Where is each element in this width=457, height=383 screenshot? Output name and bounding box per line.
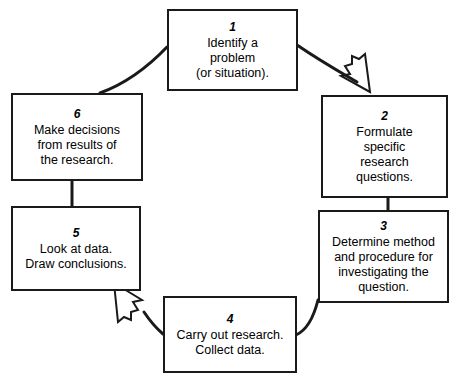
- node-5-label: Look at data. Draw conclusions.: [21, 242, 130, 272]
- process-node-3[interactable]: 3 Determine method and procedure for inv…: [318, 210, 449, 303]
- diagram-canvas: 1 Identify a problem (or situation). 2 F…: [0, 0, 457, 383]
- node-3-label: Determine method and procedure for inves…: [328, 235, 439, 295]
- process-node-6[interactable]: 6 Make decisions from results of the res…: [11, 93, 143, 181]
- node-1-label: Identify a problem (or situation).: [192, 36, 273, 81]
- connector-1-to-2: [297, 45, 357, 82]
- process-node-1[interactable]: 1 Identify a problem (or situation).: [167, 9, 298, 91]
- connector-3-to-4: [296, 300, 318, 335]
- process-node-4[interactable]: 4 Carry out research. Collect data.: [163, 296, 297, 373]
- node-6-number: 6: [74, 107, 81, 121]
- node-4-number: 4: [227, 312, 234, 326]
- process-node-2[interactable]: 2 Formulate specific research questions.: [321, 95, 448, 198]
- node-5-number: 5: [73, 226, 80, 240]
- node-2-number: 2: [381, 109, 388, 123]
- node-1-number: 1: [229, 20, 236, 34]
- process-node-5[interactable]: 5 Look at data. Draw conclusions.: [11, 206, 141, 291]
- connector-6-to-1: [100, 47, 167, 93]
- connector-4-to-5: [144, 312, 163, 334]
- node-6-label: Make decisions from results of the resea…: [30, 123, 124, 168]
- node-4-label: Carry out research. Collect data.: [173, 328, 288, 358]
- node-3-number: 3: [380, 219, 387, 233]
- arrowhead-1-to-2: [341, 54, 370, 92]
- node-2-label: Formulate specific research questions.: [352, 125, 417, 185]
